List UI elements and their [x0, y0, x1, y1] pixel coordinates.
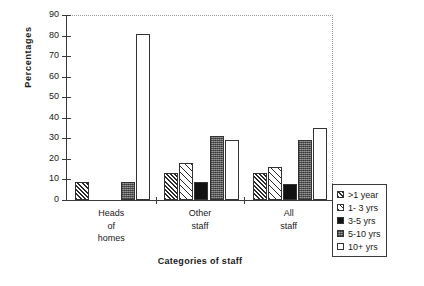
bar — [75, 182, 89, 201]
bar — [164, 173, 178, 200]
bar — [225, 140, 239, 200]
x-axis-category-label-line: Heads — [67, 207, 156, 220]
bar — [194, 182, 208, 201]
legend-item[interactable]: >1 year — [337, 188, 381, 201]
bar — [253, 173, 267, 200]
bar — [121, 182, 135, 201]
legend-swatch-icon — [337, 230, 344, 237]
y-axis-tick-label: 90 — [34, 9, 59, 20]
bar — [268, 167, 282, 200]
y-axis-tick-label: 0 — [34, 194, 59, 205]
x-axis-category-label: Otherstaff — [156, 207, 245, 232]
legend-item-label: 1- 3 yrs — [348, 203, 378, 213]
legend-item[interactable]: 5-10 yrs — [337, 227, 381, 240]
x-axis-category-label-line: All — [244, 207, 333, 220]
y-axis-title: Percentages — [23, 7, 33, 107]
y-axis-tick-label: 30 — [34, 132, 59, 143]
x-axis-category-label-line: Other — [156, 207, 245, 220]
y-axis-tick-label: 10 — [34, 173, 59, 184]
legend-swatch-icon — [337, 204, 344, 211]
bar-chart: Percentages 0102030405060708090 Headsofh… — [0, 0, 424, 286]
bar — [136, 34, 150, 201]
legend-item[interactable]: 10+ yrs — [337, 240, 381, 253]
legend-item-label: 5-10 yrs — [348, 229, 381, 239]
y-axis-tick-mark — [62, 200, 71, 201]
y-axis-tick-label: 70 — [34, 50, 59, 61]
bar — [283, 184, 297, 200]
x-axis-line — [66, 200, 334, 201]
bar — [179, 163, 193, 200]
y-axis-tick-label: 80 — [34, 30, 59, 41]
x-axis-category-label-line: of — [67, 220, 156, 233]
x-axis-category-label-line: staff — [156, 220, 245, 233]
bar — [210, 136, 224, 200]
legend-item-label: 3-5 yrs — [348, 216, 376, 226]
y-axis-tick-label: 50 — [34, 91, 59, 102]
x-axis-category-label: Allstaff — [244, 207, 333, 232]
bar — [298, 140, 312, 200]
y-axis-tick-label: 60 — [34, 71, 59, 82]
legend-swatch-icon — [337, 191, 344, 198]
bar-series-container — [67, 15, 333, 200]
legend-item-label: >1 year — [348, 190, 378, 200]
x-axis-title: Categories of staff — [67, 256, 333, 266]
legend-swatch-icon — [337, 243, 344, 250]
legend-item-label: 10+ yrs — [348, 242, 378, 252]
x-axis-category-label-line: staff — [244, 220, 333, 233]
x-axis-category-label: Headsofhomes — [67, 207, 156, 245]
legend-swatch-icon — [337, 217, 344, 224]
legend-item[interactable]: 3-5 yrs — [337, 214, 381, 227]
legend-item[interactable]: 1- 3 yrs — [337, 201, 381, 214]
y-axis-tick-label: 40 — [34, 112, 59, 123]
legend: >1 year1- 3 yrs3-5 yrs5-10 yrs10+ yrs — [332, 184, 387, 257]
bar — [313, 128, 327, 200]
y-axis-tick-label: 20 — [34, 153, 59, 164]
x-axis-category-label-line: homes — [67, 232, 156, 245]
